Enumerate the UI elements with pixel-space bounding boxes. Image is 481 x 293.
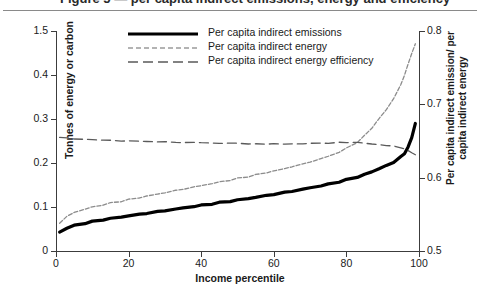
x-axis-tick-label: 60 <box>254 257 294 269</box>
y-axis-left-tick-label: 0.1 <box>8 200 48 212</box>
y-axis-left-tick-label: 0.4 <box>8 68 48 80</box>
y-axis-right-tick <box>420 31 425 32</box>
series-line-per-capita-indirect-energy <box>60 44 416 224</box>
y-axis-left-tick-label: 0 <box>8 244 48 256</box>
y-axis-right-tick-label: 0.5 <box>427 244 467 256</box>
y-axis-left-tick-label: 0.2 <box>8 156 48 168</box>
x-axis-tick-label: 80 <box>326 257 366 269</box>
figure-title-clipped: Figure 5 — per capita indirect emissions… <box>60 0 450 6</box>
x-axis-tick-label: 20 <box>109 257 149 269</box>
y-axis-right-line <box>419 31 420 252</box>
x-axis-tick-label: 40 <box>181 257 221 269</box>
plot-area <box>56 31 419 251</box>
y-axis-right-tick <box>420 251 425 252</box>
y-axis-right-tick <box>420 104 425 105</box>
header-divider <box>3 10 477 11</box>
x-axis-title: Income percentile <box>150 272 330 284</box>
y-axis-left-tick-label: 0.3 <box>8 112 48 124</box>
x-axis-line <box>56 251 420 252</box>
x-axis-tick-label: 0 <box>36 257 76 269</box>
x-axis-tick-label: 100 <box>399 257 439 269</box>
y-axis-left-tick-label: 1.5 <box>8 24 48 36</box>
chart-figure: Figure 5 — per capita indirect emissions… <box>0 0 481 293</box>
y-axis-right-tick <box>420 178 425 179</box>
series-line-per-capita-indirect-energy-efficiency <box>60 137 416 154</box>
y-axis-right-title: Per capita indirect emission/ per capita… <box>445 23 469 193</box>
